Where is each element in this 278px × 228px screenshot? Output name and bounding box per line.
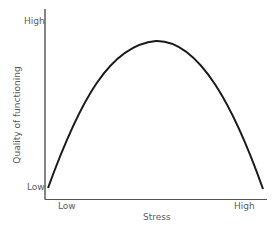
y-axis-title: Quality of functioning <box>13 66 22 163</box>
x-axis-title: Stress <box>143 213 171 222</box>
y-tick-high: High <box>24 17 45 26</box>
y-tick-low: Low <box>27 183 45 192</box>
x-tick-high: High <box>234 202 255 211</box>
chart-canvas <box>0 0 278 228</box>
x-tick-low: Low <box>58 202 76 211</box>
inverted-u-curve <box>48 41 263 189</box>
